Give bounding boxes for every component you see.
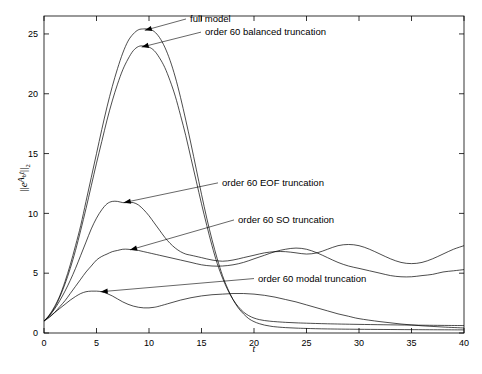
x-tick-label: 15 bbox=[196, 338, 206, 348]
x-tick-label: 35 bbox=[406, 338, 416, 348]
x-tick-label: 0 bbox=[41, 338, 46, 348]
x-tick-label: 25 bbox=[301, 338, 311, 348]
annotation-label: order 60 EOF truncation bbox=[222, 177, 324, 188]
x-tick-label: 10 bbox=[144, 338, 154, 348]
x-tick-label: 30 bbox=[354, 338, 364, 348]
y-tick-label: 5 bbox=[33, 268, 38, 278]
annotation-label: order 60 modal truncation bbox=[258, 273, 366, 284]
x-tick-label: 40 bbox=[459, 338, 469, 348]
y-tick-label: 15 bbox=[28, 149, 38, 159]
y-tick-label: 10 bbox=[28, 209, 38, 219]
x-axis-label: t bbox=[253, 343, 256, 354]
annotation-label: order 60 balanced truncation bbox=[205, 26, 326, 37]
y-tick-label: 0 bbox=[33, 328, 38, 338]
annotation-label: order 60 SO truncation bbox=[238, 214, 334, 225]
x-tick-label: 5 bbox=[94, 338, 99, 348]
line-chart: 0510152025303540 0510152025 full modelor… bbox=[0, 0, 482, 374]
annotation-label: full model bbox=[190, 13, 231, 24]
y-tick-label: 20 bbox=[28, 89, 38, 99]
figure-container: 0510152025303540 0510152025 full modelor… bbox=[0, 0, 482, 374]
y-tick-label: 25 bbox=[28, 29, 38, 39]
